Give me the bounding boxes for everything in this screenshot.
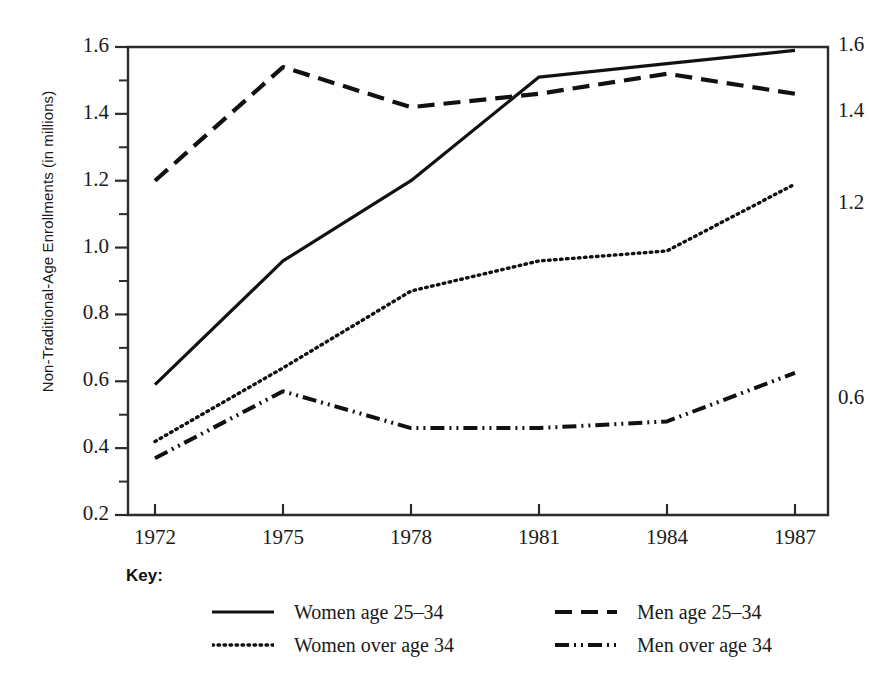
series-line-1 xyxy=(155,67,795,181)
y-axis-tick-label: 0.4 xyxy=(53,434,109,459)
plot-frame xyxy=(128,47,828,515)
legend-label: Men age 25–34 xyxy=(637,601,761,624)
y-axis-tick-label: 1.6 xyxy=(53,33,109,58)
series-end-label: 1.2 xyxy=(838,190,864,215)
chart-series xyxy=(155,50,795,458)
chart-figure: Non-Traditional-Age Enrollments (in mill… xyxy=(0,0,869,673)
series-end-label: 1.6 xyxy=(838,32,864,57)
legend-swatch-dashed xyxy=(555,605,617,619)
legend-label: Women over age 34 xyxy=(294,634,454,657)
series-end-label: 0.6 xyxy=(838,385,864,410)
series-end-label: 1.4 xyxy=(838,98,864,123)
series-line-2 xyxy=(155,184,795,441)
y-axis-tick-label: 0.6 xyxy=(53,367,109,392)
legend-swatch-solid xyxy=(212,605,274,619)
x-axis-tick-label: 1981 xyxy=(494,525,584,550)
y-axis-tick-label: 0.2 xyxy=(53,501,109,526)
legend-label: Women age 25–34 xyxy=(294,601,443,624)
x-axis-tick-label: 1984 xyxy=(622,525,712,550)
chart-axes xyxy=(115,47,828,515)
legend-swatch-dash-dot xyxy=(555,638,617,652)
legend-swatch-dotted xyxy=(212,638,274,652)
x-axis-tick-label: 1987 xyxy=(750,525,840,550)
x-axis-tick-label: 1978 xyxy=(366,525,456,550)
x-axis-tick-label: 1975 xyxy=(238,525,328,550)
x-axis-tick-label: 1972 xyxy=(110,525,200,550)
legend-label: Men over age 34 xyxy=(637,634,772,657)
y-axis-tick-label: 1.2 xyxy=(53,167,109,192)
legend-title: Key: xyxy=(126,566,163,586)
y-axis-tick-label: 1.0 xyxy=(53,234,109,259)
y-axis-tick-label: 0.8 xyxy=(53,300,109,325)
y-axis-tick-label: 1.4 xyxy=(53,100,109,125)
